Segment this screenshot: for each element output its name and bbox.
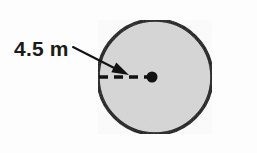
center-dot [147,72,158,83]
geometry-figure: 4.5 m [0,0,257,153]
radius-measurement-label: 4.5 m [14,37,69,60]
circle-radius-diagram: 4.5 m [0,0,257,153]
